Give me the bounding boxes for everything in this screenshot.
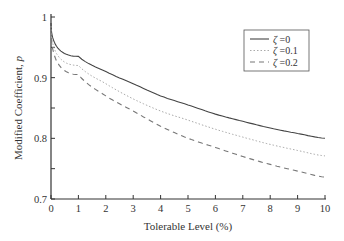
x-tick-label: 1 [76, 203, 81, 214]
x-tick-label: 6 [213, 203, 218, 214]
legend-label: ζ =0.2 [273, 57, 298, 69]
x-tick-label: 3 [131, 203, 136, 214]
x-tick-label: 7 [240, 203, 245, 214]
legend: ζ =0ζ =0.1ζ =0.2 [244, 30, 309, 71]
x-tick-label: 9 [295, 203, 300, 214]
y-axis-label: Modified Coefficient, p [12, 56, 24, 160]
x-tick-label: 5 [185, 203, 190, 214]
y-tick-label: 0.7 [34, 194, 47, 205]
y-tick-label: 1 [42, 12, 47, 23]
x-tick-label: 2 [103, 203, 108, 214]
legend-label: ζ =0.1 [273, 45, 298, 57]
x-tick-label: 0 [48, 203, 53, 214]
x-tick-label: 8 [268, 203, 273, 214]
x-axis-label: Tolerable Level (%) [144, 220, 233, 233]
x-tick-label: 4 [158, 203, 164, 214]
legend-label: ζ =0 [273, 34, 290, 46]
y-tick-label: 0.9 [34, 73, 47, 84]
x-tick-label: 10 [320, 203, 331, 214]
y-tick-label: 0.8 [34, 133, 47, 144]
line-chart: 0123456789100.70.80.91 Tolerable Level (… [0, 0, 344, 241]
